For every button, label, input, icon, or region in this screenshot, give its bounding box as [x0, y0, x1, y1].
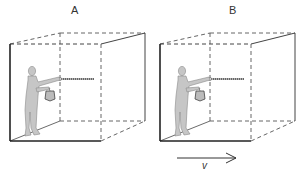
velocity-label: v — [202, 160, 207, 171]
panel-a-scene — [10, 33, 145, 141]
panel-b-scene — [160, 33, 295, 141]
diagram-canvas — [0, 0, 299, 177]
